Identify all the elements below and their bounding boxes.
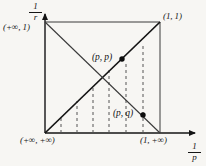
corner-label-top-left: (+∞, 1) xyxy=(3,23,30,32)
corner-label-bottom-right: (1, +∞) xyxy=(140,136,167,145)
x-axis-label: 1 p xyxy=(188,142,201,162)
x-axis-label-denominator: p xyxy=(188,153,201,162)
point-label-p-q: (p, q) xyxy=(113,109,133,119)
figure-container: 1 r 1 p (+∞, 1) (1, 1) (+∞, +∞) (1, +∞) … xyxy=(0,0,206,166)
x-axis-label-numerator: 1 xyxy=(188,142,201,151)
y-axis-label-denominator: r xyxy=(29,13,42,22)
point-p-p-marker xyxy=(119,56,124,61)
point-p-q-marker xyxy=(140,112,145,117)
y-axis-label-numerator: 1 xyxy=(29,2,42,11)
y-axis-label: 1 r xyxy=(29,2,42,22)
corner-label-bottom-left: (+∞, +∞) xyxy=(20,136,55,145)
point-label-p-p: (p, p) xyxy=(92,53,112,63)
corner-label-top-right: (1, 1) xyxy=(163,12,182,21)
